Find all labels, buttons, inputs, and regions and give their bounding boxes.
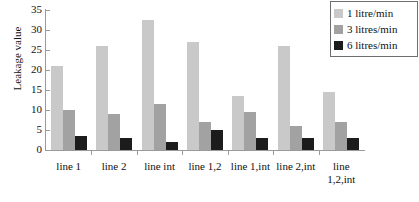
y-axis-tick-label: 30 (20, 24, 42, 35)
legend-label: 6 litres/min (347, 40, 397, 51)
x-axis-tick-mark (91, 150, 92, 155)
bar (142, 20, 154, 150)
bar-group (273, 10, 318, 150)
bar (302, 138, 314, 150)
plot-area (46, 10, 364, 150)
y-axis-tick-label: 15 (20, 84, 42, 95)
x-axis-category-label: line int (137, 160, 182, 173)
bar-group (182, 10, 227, 150)
bar (96, 46, 108, 150)
bar-group (137, 10, 182, 150)
y-axis-tick-mark (46, 10, 50, 11)
bar-chart: Leakage value 05101520253035 line 1line … (0, 0, 419, 202)
y-axis-tick-labels: 05101520253035 (0, 0, 42, 202)
y-axis-tick-mark (46, 30, 50, 31)
y-axis-tick-label: 20 (20, 64, 42, 75)
x-axis-category-labels: line 1line 2line intline 1,2line 1,intli… (46, 160, 364, 202)
bar (335, 122, 347, 150)
x-axis-category-label: line 2 (91, 160, 136, 173)
y-axis-tick-label: 0 (20, 144, 42, 155)
bar (290, 126, 302, 150)
x-axis-category-label: line 1,2 (182, 160, 227, 173)
y-axis-tick-label: 10 (20, 104, 42, 115)
y-axis-tick-mark (46, 50, 50, 51)
bar-group (91, 10, 136, 150)
bar (108, 114, 120, 150)
x-axis-tick-mark (182, 150, 183, 155)
y-axis-tick-mark (46, 150, 50, 151)
y-axis-tick-label: 35 (20, 4, 42, 15)
y-axis-tick-mark (46, 130, 50, 131)
x-axis-tick-mark (319, 150, 320, 155)
bar (199, 122, 211, 150)
y-axis-tick-mark (46, 70, 50, 71)
legend-label: 3 litres/min (347, 24, 397, 35)
bar (75, 136, 87, 150)
bar (278, 46, 290, 150)
bar (256, 138, 268, 150)
y-axis-tick-mark (46, 110, 50, 111)
x-axis-category-label: line 1 (46, 160, 91, 173)
legend-label: 1 litre/min (347, 8, 393, 19)
x-axis-tick-mark (137, 150, 138, 155)
legend-item: 1 litre/min (334, 5, 415, 21)
bar (232, 96, 244, 150)
bar (323, 92, 335, 150)
x-axis-category-label: line 2,int (273, 160, 318, 173)
bar-group (46, 10, 91, 150)
x-axis-tick-mark (228, 150, 229, 155)
bar (187, 42, 199, 150)
bar (211, 130, 223, 150)
legend-swatch-icon (334, 25, 343, 34)
x-axis-category-label: line 1,int (228, 160, 273, 173)
legend: 1 litre/min3 litres/min6 litres/min (330, 1, 418, 57)
y-axis-tick-label: 25 (20, 44, 42, 55)
bar (154, 104, 166, 150)
y-axis-tick-mark (46, 90, 50, 91)
bar (347, 138, 359, 150)
legend-swatch-icon (334, 9, 343, 18)
bar-group (228, 10, 273, 150)
legend-item: 6 litres/min (334, 37, 415, 53)
legend-item: 3 litres/min (334, 21, 415, 37)
x-axis-category-label: line1,2,int (319, 160, 364, 186)
bar (120, 138, 132, 150)
y-axis-tick-label: 5 (20, 124, 42, 135)
bar (166, 142, 178, 150)
bar (244, 112, 256, 150)
x-axis-line (45, 150, 365, 151)
bar (51, 66, 63, 150)
x-axis-tick-mark (273, 150, 274, 155)
legend-swatch-icon (334, 41, 343, 50)
bar (63, 110, 75, 150)
